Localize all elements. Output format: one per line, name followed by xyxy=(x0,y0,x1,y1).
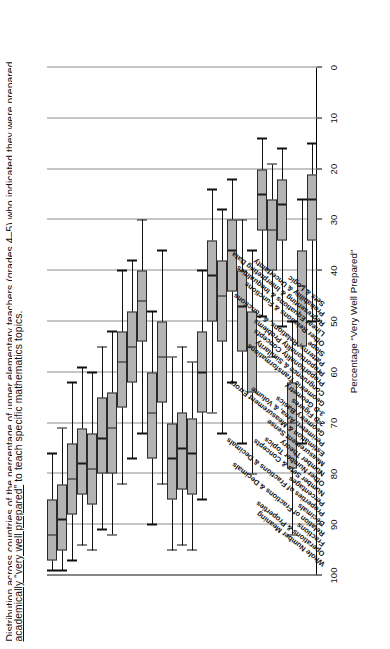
boxplot-row xyxy=(197,67,207,575)
box-iqr xyxy=(267,199,277,270)
median-marker xyxy=(48,534,56,536)
box-iqr xyxy=(187,418,197,494)
median-marker xyxy=(268,229,276,231)
whisker-cap-min xyxy=(257,137,267,139)
boxplot-row xyxy=(97,67,107,575)
boxplot-row xyxy=(87,67,97,575)
median-marker xyxy=(158,356,166,358)
median-marker xyxy=(98,437,106,439)
category-labels: Whole Number MeaningOperations & Propert… xyxy=(319,67,389,575)
whisker-cap-min xyxy=(217,208,227,210)
whisker-cap-max xyxy=(117,483,127,485)
whisker-cap-max xyxy=(187,549,197,551)
box-iqr xyxy=(47,499,57,560)
whisker-cap-min xyxy=(47,452,57,454)
whisker-cap-max xyxy=(127,457,137,459)
caption-emphasis: academically “very well prepared” xyxy=(13,484,24,641)
median-marker xyxy=(218,295,226,297)
boxplot-row xyxy=(177,67,187,575)
whisker-cap-min xyxy=(227,178,237,180)
box-iqr xyxy=(167,423,177,499)
boxplot-row xyxy=(167,67,177,575)
median-marker xyxy=(178,447,186,449)
whisker-cap-min xyxy=(107,330,117,332)
box-iqr xyxy=(307,174,317,240)
boxplot-row xyxy=(217,67,227,575)
box-iqr xyxy=(157,321,167,402)
whisker-cap-min xyxy=(277,148,287,150)
whisker-cap-max xyxy=(137,432,147,434)
median-marker xyxy=(258,193,266,195)
whisker-cap-min xyxy=(117,269,127,271)
whisker-cap-max xyxy=(57,569,67,571)
whisker-cap-min xyxy=(237,219,247,221)
box-iqr xyxy=(277,179,287,240)
box-iqr xyxy=(57,484,67,550)
boxplot-row xyxy=(137,67,147,575)
boxplot-row xyxy=(47,67,57,575)
whisker-cap-max xyxy=(207,412,217,414)
whisker-cap-min xyxy=(77,366,87,368)
whisker-cap-min xyxy=(207,188,217,190)
median-marker xyxy=(68,478,76,480)
boxplot-row xyxy=(207,67,217,575)
rotated-figure: Distribution across countries of the per… xyxy=(0,0,390,649)
boxplot-row xyxy=(107,67,117,575)
whisker-cap-min xyxy=(247,249,257,251)
box-iqr xyxy=(217,260,227,341)
whisker-cap-min xyxy=(177,346,187,348)
median-marker xyxy=(108,427,116,429)
box-iqr xyxy=(257,169,267,230)
box-iqr xyxy=(107,392,117,473)
box-iqr xyxy=(117,331,127,407)
figure-caption: Distribution across countries of the per… xyxy=(4,9,26,641)
whisker-cap-min xyxy=(297,198,307,200)
caption-line-clipped: Distribution across countries of the per… xyxy=(5,61,12,641)
median-marker xyxy=(148,412,156,414)
box-iqr xyxy=(207,240,217,321)
median-marker xyxy=(208,275,216,277)
boxplot-row xyxy=(77,67,87,575)
whisker-cap-min xyxy=(57,427,67,429)
boxplot-row xyxy=(227,67,237,575)
whisker-cap-min xyxy=(267,163,277,165)
median-marker xyxy=(198,371,206,373)
median-marker xyxy=(188,452,196,454)
boxplot-row xyxy=(57,67,67,575)
boxplot-row xyxy=(67,67,77,575)
whisker-cap-max xyxy=(47,569,57,571)
whisker-cap-min xyxy=(87,371,97,373)
caption-line-2: to teach specific mathematics topics. xyxy=(13,310,24,484)
median-marker xyxy=(58,518,66,520)
median-marker xyxy=(118,361,126,363)
whisker-cap-min xyxy=(197,269,207,271)
whisker-cap-min xyxy=(157,249,167,251)
median-marker xyxy=(88,468,96,470)
box-iqr xyxy=(137,270,147,341)
median-marker xyxy=(138,300,146,302)
whisker-cap-max xyxy=(167,549,177,551)
box-iqr xyxy=(77,428,87,494)
whisker-cap-max xyxy=(67,559,77,561)
boxplot-row xyxy=(157,67,167,575)
whisker-cap-max xyxy=(147,523,157,525)
median-marker xyxy=(128,346,136,348)
whisker-cap-min xyxy=(67,381,77,383)
boxplot-row xyxy=(147,67,157,575)
whisker-cap-min xyxy=(137,219,147,221)
whisker-cap-min xyxy=(187,361,197,363)
whisker-cap-min xyxy=(147,310,157,312)
whisker-cap-max xyxy=(197,498,207,500)
whisker-cap-max xyxy=(97,529,107,531)
box-iqr xyxy=(177,412,187,488)
median-marker xyxy=(308,198,316,200)
whisker-cap-max xyxy=(77,544,87,546)
box-iqr xyxy=(97,397,107,473)
median-marker xyxy=(168,457,176,459)
whisker-cap-min xyxy=(97,346,107,348)
whisker-cap-max xyxy=(217,432,227,434)
box-iqr xyxy=(147,372,157,458)
boxplot-row xyxy=(127,67,137,575)
median-marker xyxy=(278,203,286,205)
boxplot-row xyxy=(237,67,247,575)
